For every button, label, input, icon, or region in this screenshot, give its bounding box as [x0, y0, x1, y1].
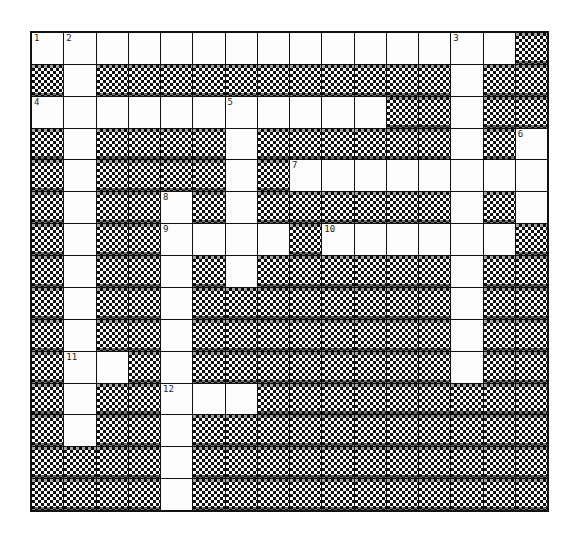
crossword-cell[interactable] [484, 160, 515, 191]
crossword-cell[interactable] [193, 224, 224, 255]
crossword-cell[interactable] [451, 256, 482, 287]
crossword-cell[interactable] [419, 160, 450, 191]
blocked-cell [484, 288, 515, 319]
blocked-cell [193, 256, 224, 287]
crossword-cell[interactable]: 7 [290, 160, 321, 191]
crossword-cell[interactable] [64, 160, 95, 191]
blocked-cell [322, 288, 353, 319]
crossword-cell[interactable] [64, 65, 95, 96]
crossword-cell[interactable] [226, 224, 257, 255]
crossword-cell[interactable] [97, 352, 128, 383]
crossword-cell[interactable] [161, 447, 192, 478]
crossword-cell[interactable]: 1 [32, 33, 63, 64]
crossword-cell[interactable] [226, 33, 257, 64]
crossword-cell[interactable] [97, 97, 128, 128]
crossword-cell[interactable] [322, 97, 353, 128]
crossword-cell[interactable] [97, 33, 128, 64]
crossword-cell[interactable] [64, 256, 95, 287]
crossword-cell[interactable]: 11 [64, 352, 95, 383]
crossword-cell[interactable]: 2 [64, 33, 95, 64]
crossword-cell[interactable] [387, 224, 418, 255]
crossword-cell[interactable] [161, 288, 192, 319]
crossword-cell[interactable]: 12 [161, 384, 192, 415]
crossword-cell[interactable] [258, 33, 289, 64]
crossword-cell[interactable] [226, 160, 257, 191]
crossword-cell[interactable] [64, 415, 95, 446]
crossword-cell[interactable] [451, 160, 482, 191]
crossword-cell[interactable] [226, 256, 257, 287]
crossword-cell[interactable] [484, 33, 515, 64]
blocked-cell [516, 97, 547, 128]
crossword-cell[interactable] [516, 192, 547, 223]
clue-number: 2 [66, 34, 71, 43]
crossword-cell[interactable] [64, 129, 95, 160]
crossword-cell[interactable] [355, 97, 386, 128]
blocked-cell [32, 320, 63, 351]
blocked-cell [97, 256, 128, 287]
crossword-cell[interactable] [226, 129, 257, 160]
blocked-cell [516, 224, 547, 255]
crossword-cell[interactable]: 4 [32, 97, 63, 128]
blocked-cell [32, 288, 63, 319]
crossword-cell[interactable] [161, 320, 192, 351]
crossword-cell[interactable] [290, 97, 321, 128]
crossword-cell[interactable] [193, 97, 224, 128]
blocked-cell [129, 224, 160, 255]
crossword-cell[interactable] [419, 224, 450, 255]
blocked-cell [226, 479, 257, 510]
blocked-cell [193, 447, 224, 478]
crossword-cell[interactable] [355, 160, 386, 191]
crossword-cell[interactable] [451, 65, 482, 96]
crossword-cell[interactable] [451, 192, 482, 223]
crossword-cell[interactable] [387, 33, 418, 64]
crossword-cell[interactable] [193, 33, 224, 64]
crossword-cell[interactable] [322, 33, 353, 64]
crossword-cell[interactable] [193, 384, 224, 415]
crossword-cell[interactable] [451, 320, 482, 351]
crossword-cell[interactable] [226, 192, 257, 223]
crossword-cell[interactable] [258, 224, 289, 255]
crossword-cell[interactable]: 6 [516, 129, 547, 160]
crossword-cell[interactable] [64, 224, 95, 255]
crossword-cell[interactable] [355, 33, 386, 64]
crossword-cell[interactable] [64, 384, 95, 415]
crossword-cell[interactable] [129, 33, 160, 64]
crossword-cell[interactable] [161, 415, 192, 446]
crossword-cell[interactable] [129, 97, 160, 128]
crossword-cell[interactable] [451, 129, 482, 160]
crossword-cell[interactable] [290, 33, 321, 64]
crossword-cell[interactable] [64, 97, 95, 128]
crossword-cell[interactable]: 8 [161, 192, 192, 223]
crossword-cell[interactable] [419, 33, 450, 64]
crossword-cell[interactable] [355, 224, 386, 255]
crossword-cell[interactable] [226, 384, 257, 415]
crossword-cell[interactable] [451, 352, 482, 383]
crossword-cell[interactable] [64, 320, 95, 351]
crossword-cell[interactable] [64, 288, 95, 319]
blocked-cell [193, 192, 224, 223]
blocked-cell [193, 129, 224, 160]
crossword-cell[interactable] [161, 256, 192, 287]
crossword-cell[interactable] [161, 352, 192, 383]
crossword-cell[interactable]: 3 [451, 33, 482, 64]
blocked-cell [387, 256, 418, 287]
blocked-cell [193, 479, 224, 510]
crossword-cell[interactable] [451, 288, 482, 319]
crossword-cell[interactable] [322, 160, 353, 191]
blocked-cell [129, 384, 160, 415]
blocked-cell [97, 288, 128, 319]
crossword-cell[interactable] [161, 33, 192, 64]
crossword-cell[interactable] [387, 160, 418, 191]
clue-number: 12 [163, 385, 174, 394]
crossword-cell[interactable] [64, 192, 95, 223]
crossword-cell[interactable] [161, 97, 192, 128]
crossword-cell[interactable] [451, 97, 482, 128]
crossword-cell[interactable] [258, 97, 289, 128]
crossword-cell[interactable] [484, 224, 515, 255]
crossword-cell[interactable] [516, 160, 547, 191]
crossword-cell[interactable]: 10 [322, 224, 353, 255]
crossword-cell[interactable] [451, 224, 482, 255]
crossword-cell[interactable]: 9 [161, 224, 192, 255]
crossword-cell[interactable] [161, 479, 192, 510]
crossword-cell[interactable]: 5 [226, 97, 257, 128]
